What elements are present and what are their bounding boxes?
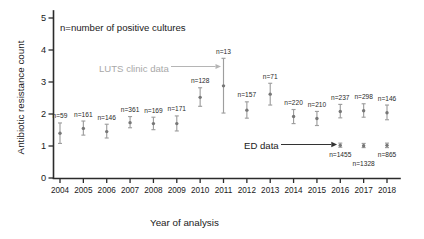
x-axis-tick-label: 2015 xyxy=(308,186,327,195)
data-point-group: n=298 xyxy=(354,93,373,117)
x-axis-tick-label: 2006 xyxy=(98,186,117,195)
n-count-label: n=59 xyxy=(53,112,68,119)
ed-arrow-head xyxy=(331,142,337,148)
data-point-marker xyxy=(152,122,155,125)
data-point-marker xyxy=(292,115,295,118)
data-point-group: n=210 xyxy=(308,101,327,126)
data-point-marker xyxy=(385,144,388,147)
x-axis-tick-label: 2004 xyxy=(51,186,70,195)
chart-svg: 0123452004200520062007200820092010201120… xyxy=(0,0,424,239)
data-point-marker xyxy=(105,130,108,133)
data-point-marker xyxy=(198,96,201,99)
data-point-group: n=361 xyxy=(121,106,140,128)
n-count-label: n=1328 xyxy=(353,160,376,167)
n-count-label: n=298 xyxy=(354,93,373,100)
x-axis-tick-label: 2009 xyxy=(168,186,187,195)
x-axis-tick-label: 2017 xyxy=(355,186,374,195)
data-point-marker xyxy=(362,144,365,147)
n-count-label: n=210 xyxy=(308,101,327,108)
n-count-label: n=169 xyxy=(144,107,163,114)
data-point-group: n=865 xyxy=(378,143,397,158)
axes-group: 0123452004200520062007200820092010201120… xyxy=(41,11,400,195)
data-point-marker xyxy=(339,144,342,147)
y-axis-tick-label: 0 xyxy=(41,173,46,183)
n-count-label: n=161 xyxy=(74,111,93,118)
y-axis-tick-label: 3 xyxy=(41,77,46,87)
data-point-group: n=1328 xyxy=(353,143,376,167)
data-point-marker xyxy=(175,122,178,125)
data-point-group: n=220 xyxy=(284,99,303,124)
data-points-group: n=59n=161n=146n=361n=169n=171n=128n=13n=… xyxy=(53,48,397,167)
data-point-group: n=157 xyxy=(238,91,257,118)
x-axis-tick-label: 2007 xyxy=(121,186,140,195)
x-axis-tick-label: 2018 xyxy=(378,186,397,195)
data-point-marker xyxy=(385,111,388,114)
x-axis-tick-label: 2014 xyxy=(284,186,303,195)
data-point-group: n=71 xyxy=(263,73,278,105)
data-point-group: n=128 xyxy=(191,77,210,106)
data-point-group: n=169 xyxy=(144,107,163,130)
n-count-label: n=1455 xyxy=(329,151,352,158)
n-count-label: n=237 xyxy=(331,94,350,101)
x-axis-tick-label: 2012 xyxy=(238,186,257,195)
y-axis-tick-label: 2 xyxy=(41,109,46,119)
data-point-group: n=161 xyxy=(74,111,93,136)
data-point-marker xyxy=(58,132,61,135)
data-point-group: n=59 xyxy=(53,112,68,143)
n-count-label: n=146 xyxy=(378,95,397,102)
chart-figure: 0123452004200520062007200820092010201120… xyxy=(0,0,424,239)
x-axis-tick-label: 2011 xyxy=(215,186,233,195)
data-point-marker xyxy=(315,117,318,120)
x-axis-tick-label: 2010 xyxy=(191,186,210,195)
data-point-group: n=13 xyxy=(216,48,231,113)
data-point-marker xyxy=(128,121,131,124)
y-axis-tick-label: 4 xyxy=(41,45,46,55)
data-point-group: n=146 xyxy=(97,114,116,138)
data-point-group: n=237 xyxy=(331,94,350,118)
n-count-label: n=865 xyxy=(378,151,397,158)
n-count-label: n=146 xyxy=(97,114,116,121)
n-count-label: n=71 xyxy=(263,73,278,80)
data-point-marker xyxy=(269,92,272,95)
n-count-label: n=13 xyxy=(216,48,231,55)
data-point-marker xyxy=(339,110,342,113)
y-axis-tick-label: 5 xyxy=(41,13,46,23)
data-point-group: n=171 xyxy=(168,105,187,131)
data-point-group: n=146 xyxy=(378,95,397,120)
x-axis-tick-label: 2013 xyxy=(261,186,280,195)
n-count-label: n=128 xyxy=(191,77,210,84)
data-point-marker xyxy=(82,127,85,130)
data-point-marker xyxy=(245,108,248,111)
luts-arrow-head xyxy=(216,64,222,69)
n-count-label: n=157 xyxy=(238,91,257,98)
data-point-marker xyxy=(362,109,365,112)
x-axis-tick-label: 2016 xyxy=(331,186,350,195)
y-axis-tick-label: 1 xyxy=(41,141,46,151)
data-point-marker xyxy=(222,84,225,87)
n-count-label: n=361 xyxy=(121,106,140,113)
x-axis-tick-label: 2005 xyxy=(74,186,93,195)
n-count-label: n=220 xyxy=(284,99,303,106)
x-axis-tick-label: 2008 xyxy=(144,186,163,195)
n-count-label: n=171 xyxy=(168,105,187,112)
